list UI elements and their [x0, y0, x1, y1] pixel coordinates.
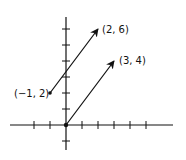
label-point-3-4: (3, 4): [119, 55, 146, 66]
point-origin: [64, 123, 68, 127]
vector-diagram: (−1, 2) (2, 6) (3, 4): [0, 0, 186, 160]
diagram-canvas: (−1, 2) (2, 6) (3, 4): [0, 0, 186, 160]
label-point-neg1-2: (−1, 2): [14, 88, 49, 99]
vector-origin-to-3-4: [66, 61, 114, 125]
vector-neg1-2-to-2-6: [50, 29, 98, 93]
label-point-2-6: (2, 6): [102, 24, 129, 35]
